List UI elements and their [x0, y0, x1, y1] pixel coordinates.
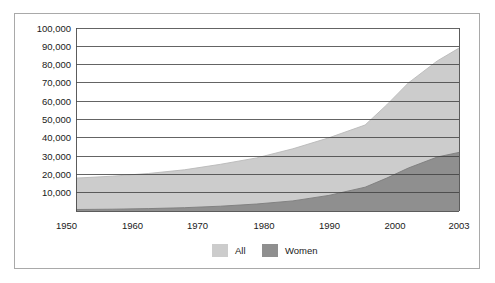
legend-label-all: All [235, 245, 246, 256]
y-tick-label: 50,000 [42, 114, 71, 125]
y-tick-label: 30,000 [42, 151, 71, 162]
area-chart: 100,000 90,000 80,000 70,000 60,000 50,0… [0, 0, 495, 283]
x-tick-label: 1960 [122, 220, 143, 231]
x-tick-label: 2003 [448, 220, 469, 231]
x-tick-label: 2000 [384, 220, 405, 231]
legend-item-all: All [212, 244, 246, 257]
y-tick-label: 70,000 [42, 77, 71, 88]
y-tick-label: 40,000 [42, 132, 71, 143]
legend-item-women: Women [262, 244, 318, 257]
x-tick-label: 1990 [319, 220, 340, 231]
x-tick-label: 1970 [187, 220, 208, 231]
y-tick-label: 20,000 [42, 169, 71, 180]
y-tick-label: 100,000 [37, 23, 71, 34]
x-axis-tick-labels: 1950 1960 1970 1980 1990 2000 2003 [56, 220, 470, 231]
x-tick-label: 1980 [253, 220, 274, 231]
x-tick-label: 1950 [56, 220, 77, 231]
legend-swatch-women [262, 244, 278, 257]
chart-legend: All Women [212, 244, 318, 257]
y-tick-label: 90,000 [42, 41, 71, 52]
figure-container: 100,000 90,000 80,000 70,000 60,000 50,0… [0, 0, 495, 283]
y-axis-tick-labels: 100,000 90,000 80,000 70,000 60,000 50,0… [37, 23, 71, 199]
y-tick-label: 10,000 [42, 187, 71, 198]
legend-swatch-all [212, 244, 228, 257]
y-tick-label: 60,000 [42, 96, 71, 107]
legend-label-women: Women [285, 245, 318, 256]
y-tick-label: 80,000 [42, 59, 71, 70]
